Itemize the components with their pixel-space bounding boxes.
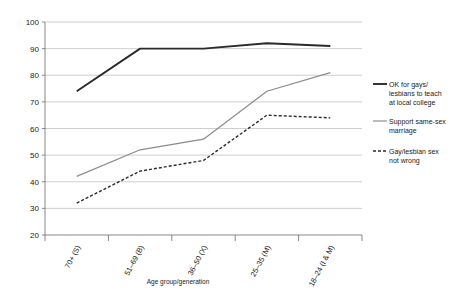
legend-label-3: Gay/lesbian sex	[389, 148, 439, 156]
y-tick-label: 30	[30, 204, 39, 213]
legend-label-3: not wrong	[389, 157, 420, 165]
y-tick-label: 70	[30, 98, 39, 107]
y-tick-label: 20	[30, 231, 39, 240]
y-tick-label: 60	[30, 125, 39, 134]
legend-label-1: OK for gays/	[389, 81, 428, 89]
y-tick-label: 90	[30, 45, 39, 54]
legend-label-1: at local college	[389, 99, 435, 107]
legend-label-2: Support same-sex	[389, 118, 446, 126]
chart-canvas: 2030405060708090100 70+ (S)51–69 (B)36–5…	[0, 0, 465, 303]
x-axis-title: Age group/generation	[147, 278, 210, 286]
legend-label-2: marriage	[389, 127, 417, 135]
y-tick-label: 50	[30, 151, 39, 160]
y-tick-label: 40	[30, 178, 39, 187]
line-chart: 2030405060708090100 70+ (S)51–69 (B)36–5…	[0, 0, 465, 303]
y-tick-label: 80	[30, 71, 39, 80]
y-tick-label: 100	[26, 18, 40, 27]
legend-label-1: lesbians to teach	[389, 90, 442, 97]
